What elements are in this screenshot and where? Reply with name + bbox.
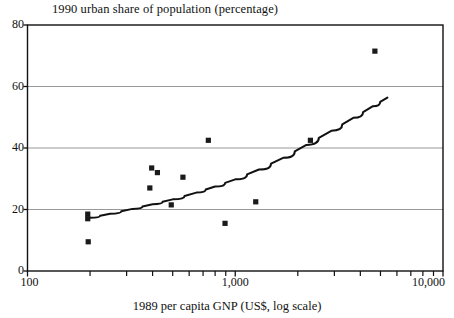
scatter-point (86, 239, 91, 244)
scatter-point (169, 202, 174, 207)
scatter-point (308, 138, 313, 143)
scatter-point (85, 212, 90, 217)
scatter-point (180, 175, 185, 180)
chart-figure: 1990 urban share of population (percenta… (0, 0, 454, 318)
scatter-point (206, 138, 211, 143)
plot-area (0, 0, 454, 318)
trend-line (90, 98, 387, 218)
scatter-point (85, 216, 90, 221)
scatter-point (372, 49, 377, 54)
x-axis-ticks (28, 271, 444, 277)
scatter-point (253, 199, 258, 204)
scatter-point (147, 185, 152, 190)
scatter-point (149, 165, 154, 170)
scatter-point (155, 170, 160, 175)
scatter-point (222, 221, 227, 226)
scatter-points (85, 49, 377, 245)
grid-lines (28, 87, 444, 210)
